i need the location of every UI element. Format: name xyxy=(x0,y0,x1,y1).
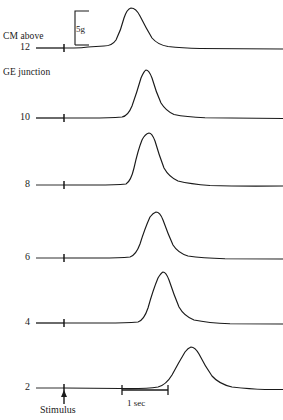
pressure-trace xyxy=(64,272,283,324)
pressure-trace xyxy=(64,8,283,49)
depth-tick-label: 12 xyxy=(8,41,30,52)
depth-tick-label: 8 xyxy=(8,178,30,189)
y-axis-title: CM above GE junction xyxy=(3,6,50,102)
depth-tick-label: 10 xyxy=(8,111,30,122)
depth-tick-label: 2 xyxy=(8,381,30,392)
manometry-figure: CM above GE junction 5g 1 sec Stimulus 1… xyxy=(0,0,283,420)
trace-group xyxy=(64,8,283,390)
pressure-trace xyxy=(64,133,283,186)
stimulus-label: Stimulus xyxy=(40,404,76,415)
depth-tick-label: 6 xyxy=(8,251,30,262)
y-axis-title-line2: GE junction xyxy=(3,66,50,78)
time-scale-label: 1 sec xyxy=(127,398,145,408)
pressure-trace xyxy=(64,70,283,119)
depth-tick-label: 4 xyxy=(8,316,30,327)
stimulus-arrow xyxy=(61,390,67,404)
pressure-trace xyxy=(64,347,283,390)
amplitude-scale-label: 5g xyxy=(76,24,85,34)
pressure-trace xyxy=(64,212,283,259)
